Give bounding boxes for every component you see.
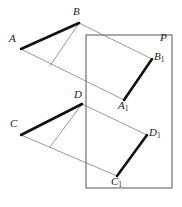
vertex-label-c1: C1 <box>111 176 122 188</box>
vertex-label-b1: B1 <box>154 51 164 63</box>
vertex-label-d: D <box>74 89 82 100</box>
proj-C-C1 <box>21 135 117 176</box>
vertex-label-subscript: 1 <box>157 131 161 140</box>
seg-CD <box>21 104 82 135</box>
proj-D-D1 <box>82 104 147 135</box>
proj-B-B1 <box>79 23 152 59</box>
proj-A-A1 <box>21 49 124 100</box>
perp-D-foot <box>50 104 82 147</box>
plane-label-p: P <box>160 32 167 43</box>
vertex-label-subscript: 1 <box>118 180 122 189</box>
seg-C1D1 <box>117 135 147 176</box>
vertex-label-d1: D1 <box>149 127 161 139</box>
vertex-label-subscript: 1 <box>161 55 165 64</box>
vertex-label-subscript: 1 <box>125 104 129 113</box>
seg-A1B1 <box>124 59 152 100</box>
vertex-label-a: A <box>9 33 16 44</box>
figure-canvas: ABA1B1CDC1D1P <box>0 0 182 207</box>
vertex-label-a1: A1 <box>118 100 128 112</box>
figure-svg <box>0 0 182 207</box>
vertex-label-b: B <box>73 6 80 17</box>
vertex-label-c: C <box>10 118 17 129</box>
